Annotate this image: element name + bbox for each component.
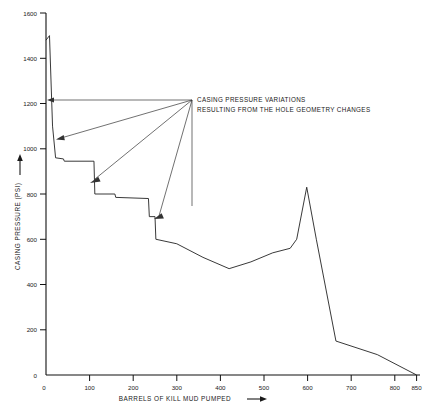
y-axis-arrow-icon xyxy=(17,154,23,175)
x-axis-ticks: 0 100 200 300 400 500 600 700 800 850 xyxy=(42,375,422,391)
y-tick-label-400: 400 xyxy=(27,281,38,288)
y-tick-label-1400: 1400 xyxy=(23,55,37,62)
y-tick-label-200: 200 xyxy=(27,326,38,333)
y-tick-label-1000: 1000 xyxy=(23,145,37,152)
data-series-group xyxy=(46,36,417,375)
y-tick-label-1600: 1600 xyxy=(23,10,37,17)
x-tick-label-0: 0 xyxy=(42,384,46,391)
x-tick-label-400: 400 xyxy=(215,384,226,391)
leader-arrow-4 xyxy=(154,100,192,219)
x-tick-label-500: 500 xyxy=(259,384,270,391)
leader-arrow-3 xyxy=(90,100,192,183)
x-tick-label-300: 300 xyxy=(172,384,183,391)
leader-arrow-2 xyxy=(56,100,192,140)
x-tick-label-800: 800 xyxy=(390,384,401,391)
x-tick-label-100: 100 xyxy=(84,384,95,391)
y-tick-label-600: 600 xyxy=(27,236,38,243)
chart-svg: 1600 1400 1200 1000 800 600 400 200 0 0 … xyxy=(0,0,428,414)
y-tick-label-800: 800 xyxy=(27,191,38,198)
x-tick-label-600: 600 xyxy=(302,384,313,391)
leader-arrow-1 xyxy=(47,97,192,102)
x-tick-label-850: 850 xyxy=(411,384,422,391)
y-tick-label-1200: 1200 xyxy=(23,100,37,107)
annotation-label: CASING PRESSURE VARIATIONS RESULTING FRO… xyxy=(197,96,370,113)
y-axis-title: CASING PRESSURE (PSI) xyxy=(14,183,22,270)
casing-pressure-line xyxy=(46,36,417,375)
casing-pressure-chart: 1600 1400 1200 1000 800 600 400 200 0 0 … xyxy=(0,0,428,414)
annotation-line-1: CASING PRESSURE VARIATIONS xyxy=(197,96,306,103)
x-tick-label-700: 700 xyxy=(346,384,357,391)
y-axis-ticks: 1600 1400 1200 1000 800 600 400 200 0 xyxy=(23,10,46,379)
x-tick-label-200: 200 xyxy=(128,384,139,391)
axis-titles: CASING PRESSURE (PSI) BARRELS OF KILL MU… xyxy=(14,154,267,402)
annotation-line-2: RESULTING FROM THE HOLE GEOMETRY CHANGES xyxy=(197,106,370,113)
annotation-leaders xyxy=(47,97,192,219)
y-tick-label-0: 0 xyxy=(34,372,38,379)
x-axis-arrow-icon xyxy=(247,396,267,402)
x-axis-title: BARRELS OF KILL MUD PUMPED xyxy=(119,395,231,402)
